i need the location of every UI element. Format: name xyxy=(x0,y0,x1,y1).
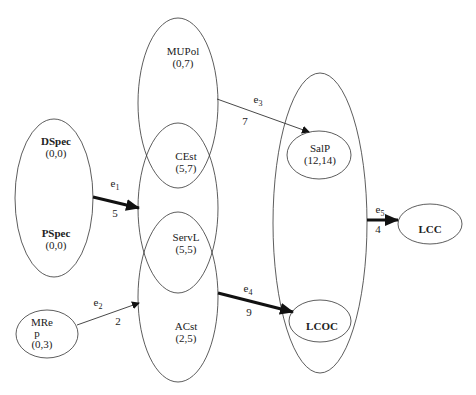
edge-e3 xyxy=(217,99,309,132)
node-cest-value: (5,7) xyxy=(175,162,196,175)
node-servl-name: ServL xyxy=(173,231,200,243)
node-lcoc-name: LCOC xyxy=(306,320,338,332)
node-acst-value: (2,5) xyxy=(175,332,196,345)
node-dspec-name: DSpec xyxy=(41,135,71,147)
node-mupol-value: (0,7) xyxy=(172,57,193,70)
edge-e4-weight: 9 xyxy=(246,306,252,318)
group-ellipse-cest-servl xyxy=(138,123,218,293)
node-pspec-name: PSpec xyxy=(42,227,71,239)
graph-diagram: DSpec (0,0) PSpec (0,0) MUPol (0,7) CEst… xyxy=(0,0,476,395)
node-dspec-value: (0,0) xyxy=(45,147,66,160)
edge-e3-weight: 7 xyxy=(242,115,248,127)
edge-e2-label: e2 xyxy=(94,296,103,311)
edge-e4-label: e4 xyxy=(244,282,253,297)
node-cest-name: CEst xyxy=(175,150,196,162)
edge-e1-label: e1 xyxy=(111,177,120,192)
node-pspec-value: (0,0) xyxy=(45,239,66,252)
edge-e5-weight: 4 xyxy=(375,223,381,235)
edge-e1-weight: 5 xyxy=(112,207,118,219)
node-lcc-name: LCC xyxy=(418,223,441,235)
node-acst-name: ACst xyxy=(175,320,198,332)
edge-e2 xyxy=(77,303,139,325)
node-mupol-name: MUPol xyxy=(167,45,199,57)
node-salp-value: (12,14) xyxy=(304,154,336,167)
node-servl-value: (5,5) xyxy=(175,243,196,256)
edge-e5-label: e5 xyxy=(376,203,385,218)
edge-e2-weight: 2 xyxy=(115,315,121,327)
node-mrep-value: (0,3) xyxy=(31,338,52,351)
edge-e3-label: e3 xyxy=(254,93,263,108)
node-salp-name: SalP xyxy=(310,142,330,154)
edge-e4 xyxy=(218,293,293,312)
